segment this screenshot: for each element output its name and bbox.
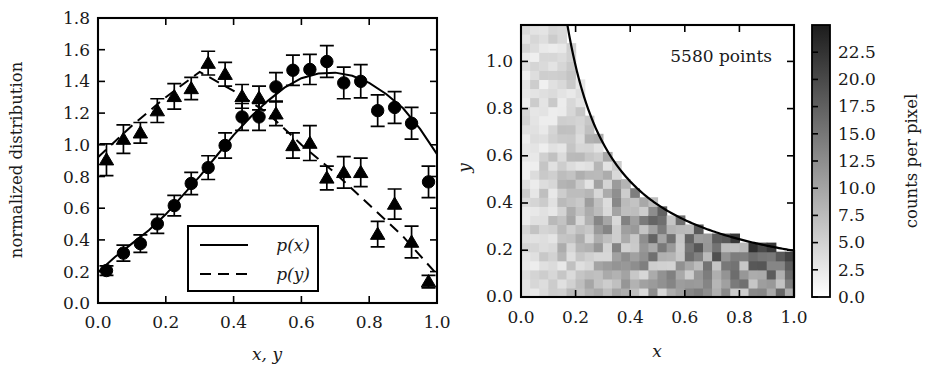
cbar-tick-5.0: 5.0 bbox=[838, 232, 865, 252]
heatmap-cell bbox=[603, 279, 613, 289]
heatmap-cell bbox=[667, 215, 677, 225]
heatmap-cell bbox=[767, 252, 777, 262]
cbar-tick-0.0: 0.0 bbox=[838, 287, 865, 307]
heatmap-cell bbox=[667, 224, 677, 234]
figure-svg: normalized distribution 1.8 1.6 1.4 1.2 … bbox=[0, 0, 935, 378]
heatmap-cell bbox=[594, 279, 604, 289]
heatmap-cell bbox=[585, 143, 595, 153]
cbar-tick-15.0: 15.0 bbox=[838, 124, 876, 144]
heatmap-cell bbox=[758, 270, 768, 280]
heatmap-cell bbox=[548, 116, 558, 126]
heatmap-cell bbox=[739, 261, 749, 271]
right-xtick-0.8: 0.8 bbox=[726, 307, 753, 327]
heatmap-cell bbox=[530, 224, 540, 234]
heatmap-cell bbox=[521, 234, 531, 244]
heatmap-cell bbox=[576, 134, 586, 144]
left-legend[interactable]: p(x) p(y) bbox=[188, 226, 318, 291]
heatmap-cell bbox=[548, 98, 558, 108]
heatmap-cell bbox=[694, 252, 704, 262]
heatmap-cell bbox=[758, 279, 768, 289]
heatmap-cell bbox=[767, 261, 777, 271]
heatmap-cell bbox=[703, 234, 713, 244]
heatmap-cell bbox=[585, 197, 595, 207]
heatmap-cell bbox=[530, 25, 540, 35]
heatmap-cell bbox=[557, 161, 567, 171]
heatmap-cell bbox=[585, 152, 595, 162]
heatmap-cell bbox=[548, 279, 558, 289]
data-point-circle bbox=[151, 218, 163, 230]
heatmap-cell bbox=[749, 270, 759, 280]
heatmap-cell bbox=[521, 152, 531, 162]
heatmap-cell bbox=[621, 224, 631, 234]
heatmap-cell bbox=[548, 143, 558, 153]
heatmap-cell bbox=[539, 134, 549, 144]
heatmap-cell bbox=[612, 206, 622, 216]
heatmap-cell bbox=[621, 243, 631, 253]
heatmap-cell bbox=[539, 215, 549, 225]
heatmap-cell bbox=[539, 61, 549, 71]
cbar-tick-7.5: 7.5 bbox=[838, 205, 865, 225]
heatmap-cell bbox=[594, 170, 604, 180]
heatmap-cell bbox=[521, 43, 531, 53]
heatmap-cell bbox=[730, 279, 740, 289]
heatmap-cell bbox=[585, 206, 595, 216]
heatmap-cell bbox=[557, 179, 567, 189]
left-ylabel: normalized distribution bbox=[7, 61, 26, 258]
heatmap-cell bbox=[776, 252, 786, 262]
heatmap-cell bbox=[603, 215, 613, 225]
cbar-tick-22.5: 22.5 bbox=[838, 42, 876, 62]
heatmap-cell bbox=[530, 134, 540, 144]
heatmap-cell bbox=[530, 88, 540, 98]
heatmap-cell bbox=[567, 88, 577, 98]
heatmap-cell bbox=[630, 261, 640, 271]
heatmap-cell bbox=[612, 197, 622, 207]
left-ytick-1.4: 1.4 bbox=[63, 71, 90, 91]
heatmap-cell bbox=[521, 98, 531, 108]
left-ytick-0.2: 0.2 bbox=[63, 262, 90, 282]
cbar-tick-20.0: 20.0 bbox=[838, 69, 876, 89]
heatmap-cell bbox=[557, 170, 567, 180]
heatmap-cell bbox=[576, 188, 586, 198]
heatmap-cell bbox=[567, 224, 577, 234]
heatmap-cell bbox=[530, 152, 540, 162]
data-point-circle bbox=[304, 63, 316, 75]
heatmap-cell bbox=[539, 188, 549, 198]
heatmap-cell bbox=[557, 25, 567, 35]
right-ytick-0.6: 0.6 bbox=[486, 145, 513, 165]
heatmap-cell bbox=[630, 252, 640, 262]
heatmap-cell bbox=[567, 234, 577, 244]
heatmap-cell bbox=[667, 270, 677, 280]
heatmap-cell bbox=[557, 224, 567, 234]
heatmap-cell bbox=[521, 261, 531, 271]
heatmap-cell bbox=[576, 234, 586, 244]
data-point-circle bbox=[287, 64, 299, 76]
heatmap-cell bbox=[557, 107, 567, 117]
left-ytick-0.0: 0.0 bbox=[63, 293, 90, 313]
heatmap-cell bbox=[612, 270, 622, 280]
heatmap-cell bbox=[621, 215, 631, 225]
cbar-tick-12.5: 12.5 bbox=[838, 151, 876, 171]
heatmap-cell bbox=[557, 197, 567, 207]
heatmap-cell bbox=[639, 270, 649, 280]
right-ytick-1.0: 1.0 bbox=[486, 51, 513, 71]
heatmap-cell bbox=[548, 270, 558, 280]
heatmap-cell bbox=[730, 270, 740, 280]
heatmap-cell bbox=[739, 252, 749, 262]
heatmap-cell bbox=[567, 270, 577, 280]
left-xtick-0.2: 0.2 bbox=[152, 312, 179, 332]
heatmap-cell bbox=[767, 270, 777, 280]
heatmap-cell bbox=[603, 188, 613, 198]
heatmap-cell bbox=[576, 152, 586, 162]
heatmap-cell bbox=[557, 61, 567, 71]
heatmap-cell bbox=[548, 79, 558, 89]
heatmap-cell bbox=[594, 143, 604, 153]
heatmap-cell bbox=[539, 252, 549, 262]
heatmap-cell bbox=[648, 234, 658, 244]
heatmap-cell bbox=[530, 170, 540, 180]
heatmap-cell bbox=[548, 134, 558, 144]
heatmap-cell bbox=[530, 243, 540, 253]
heatmap-cell bbox=[585, 243, 595, 253]
heatmap-cell bbox=[694, 279, 704, 289]
heatmap-cell bbox=[548, 188, 558, 198]
heatmap-cell bbox=[576, 224, 586, 234]
